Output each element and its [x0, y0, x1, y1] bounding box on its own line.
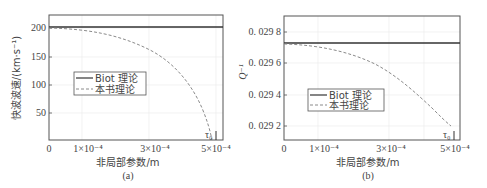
xtick-a-5: 5×10⁻⁴ — [201, 143, 231, 154]
ylabel-a: 快波波速/(km·s⁻¹) — [10, 36, 22, 120]
ytick-a-200: 200 — [31, 22, 46, 33]
legend-a-book: 本书理论 — [95, 83, 135, 95]
book-theory-curve-b — [284, 44, 451, 126]
xtick-b-3: 3×10⁻⁴ — [376, 143, 406, 154]
tau0-label-a: τ₀ — [205, 129, 213, 140]
ytick-b-0296: 0. 029 6 — [249, 57, 282, 68]
legend-a-biot: Biot 理论 — [95, 72, 138, 84]
ytick-a-150: 150 — [31, 51, 46, 62]
ytick-a-50: 50 — [36, 107, 46, 118]
caption-b: (b) — [362, 170, 374, 182]
xtick-b-5: 5×10⁻⁴ — [440, 143, 470, 154]
grid-b — [284, 16, 460, 140]
legend-b: Biot 理论 本书理论 — [308, 89, 384, 112]
chart-b: τ₀ 0. 029 8 0. 029 6 0. 029 4 0. 029 2 0… — [237, 16, 470, 182]
figure: τ₀ 200 150 100 50 0 1×10⁻⁴ 3×10⁻⁴ 5×10⁻⁴… — [0, 0, 487, 188]
ylabel-b: Q⁻¹ — [237, 64, 248, 80]
xtick-b-1: 1×10⁻⁴ — [309, 143, 339, 154]
xtick-a-1: 1×10⁻⁴ — [73, 143, 103, 154]
xtick-b-0: 0 — [282, 143, 287, 154]
legend-b-book: 本书理论 — [329, 99, 369, 111]
xtick-a-3: 3×10⁻⁴ — [140, 143, 170, 154]
ytick-a-100: 100 — [31, 79, 46, 90]
chart-a: τ₀ 200 150 100 50 0 1×10⁻⁴ 3×10⁻⁴ 5×10⁻⁴… — [10, 15, 231, 182]
tau0-label-b: τ₀ — [443, 129, 451, 140]
xlabel-b: 非局部参数/m — [336, 156, 399, 168]
ytick-b-0292: 0. 029 2 — [249, 120, 282, 131]
ytick-b-0298: 0. 029 8 — [249, 26, 282, 37]
xlabel-a: 非局部参数/m — [96, 156, 159, 168]
caption-a: (a) — [122, 170, 133, 182]
ytick-b-0294: 0. 029 4 — [249, 89, 282, 100]
xtick-a-0: 0 — [47, 143, 52, 154]
plot-frame-b — [284, 16, 460, 140]
legend-a: Biot 理论 本书理论 — [74, 72, 146, 96]
